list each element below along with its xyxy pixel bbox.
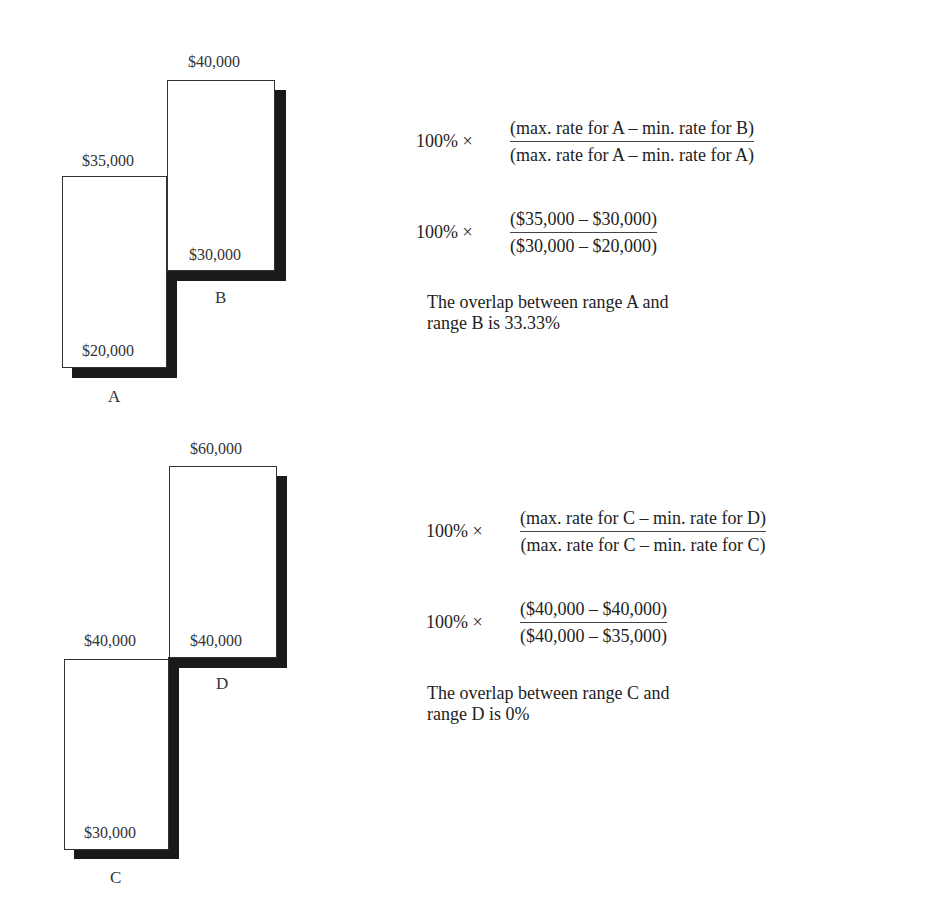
range-b-shadow [275, 90, 286, 281]
numerator: ($35,000 – $30,000) [510, 208, 657, 233]
range-a-shadow [166, 270, 177, 378]
denominator: (max. rate for C – min. rate for C) [520, 532, 766, 556]
range-a-min-label: $20,000 [82, 342, 134, 360]
multiplier: 100% × [426, 611, 483, 633]
denominator: ($40,000 – $35,000) [520, 623, 667, 647]
denominator: (max. rate for A – min. rate for A) [510, 142, 754, 166]
range-c-box [64, 659, 169, 850]
overlap-conclusion-a-b: The overlap between range A and range B … [427, 292, 677, 334]
range-b-shadow-bottom [167, 270, 286, 281]
fraction: (max. rate for C – min. rate for D) (max… [520, 507, 766, 556]
range-a-box [62, 176, 167, 368]
multiplier: 100% × [416, 221, 473, 243]
range-b-name: B [215, 289, 226, 307]
range-b-box [167, 80, 275, 271]
overlap-conclusion-c-d: The overlap between range C and range D … [427, 683, 677, 725]
range-c-max-label: $40,000 [84, 632, 136, 650]
denominator: ($30,000 – $20,000) [510, 233, 657, 257]
multiplier: 100% × [416, 130, 473, 152]
fraction: ($35,000 – $30,000) ($30,000 – $20,000) [510, 208, 657, 257]
overlap-formula-general-a-b: 100% × (max. rate for A – min. rate for … [416, 117, 886, 177]
range-d-box [169, 466, 277, 658]
fraction: (max. rate for A – min. rate for B) (max… [510, 117, 754, 166]
range-d-shadow-bottom [169, 657, 287, 668]
multiplier: 100% × [426, 520, 483, 542]
range-b-min-label: $30,000 [189, 246, 241, 264]
numerator: (max. rate for A – min. rate for B) [510, 117, 754, 142]
range-c-min-label: $30,000 [84, 824, 136, 842]
range-d-max-label: $60,000 [190, 440, 242, 458]
range-c-shadow-bottom [74, 849, 179, 859]
range-a-name: A [108, 388, 120, 406]
overlap-formula-values-c-d: 100% × ($40,000 – $40,000) ($40,000 – $3… [426, 598, 756, 658]
range-d-name: D [216, 675, 228, 693]
range-d-min-label: $40,000 [190, 632, 242, 650]
overlap-formula-general-c-d: 100% × (max. rate for C – min. rate for … [426, 507, 896, 567]
numerator: ($40,000 – $40,000) [520, 598, 667, 623]
range-a-max-label: $35,000 [82, 152, 134, 170]
range-d-shadow [276, 476, 287, 668]
numerator: (max. rate for C – min. rate for D) [520, 507, 766, 532]
range-c-shadow [168, 657, 179, 859]
range-c-name: C [110, 869, 121, 887]
range-b-max-label: $40,000 [188, 53, 240, 71]
overlap-formula-values-a-b: 100% × ($35,000 – $30,000) ($30,000 – $2… [416, 208, 746, 268]
fraction: ($40,000 – $40,000) ($40,000 – $35,000) [520, 598, 667, 647]
range-a-shadow-bottom [72, 367, 177, 378]
